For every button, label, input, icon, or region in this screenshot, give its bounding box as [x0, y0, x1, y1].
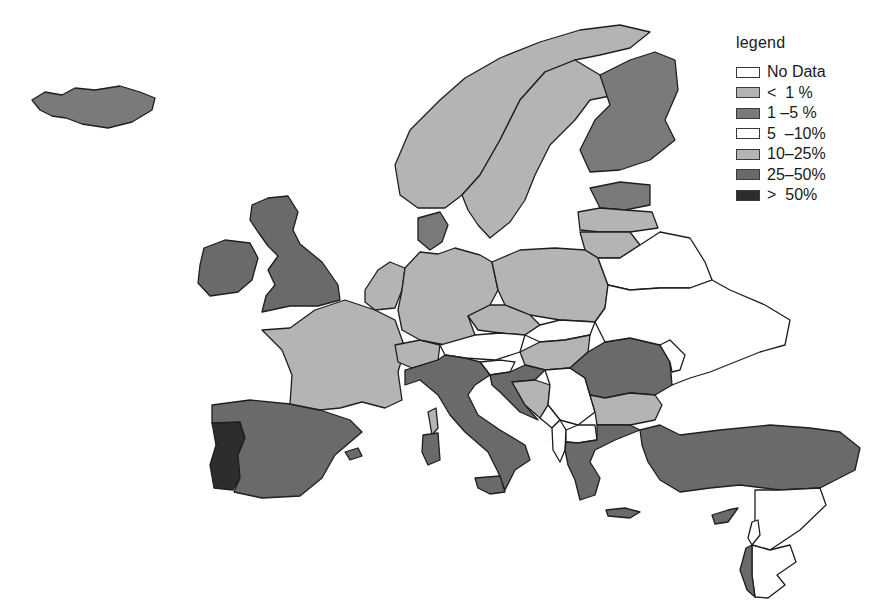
legend-label: No Data	[767, 63, 826, 81]
country-ireland	[198, 240, 258, 296]
legend-swatch	[736, 87, 760, 98]
country-bulgaria	[590, 393, 662, 425]
country-uk	[250, 196, 340, 312]
country-france-corsica	[428, 408, 438, 435]
country-france	[262, 300, 405, 410]
legend-item-1-5: 1 –5 %	[736, 103, 876, 124]
legend-item-no-data: No Data	[736, 62, 876, 83]
country-spain-balearics	[345, 448, 362, 460]
legend-label: 5 –10%	[767, 125, 826, 143]
legend-label: 1 –5 %	[767, 104, 817, 122]
country-albania	[552, 420, 566, 462]
legend-item-5-10: 5 –10%	[736, 124, 876, 145]
legend-swatch	[736, 149, 760, 160]
legend-item-lt1: < 1 %	[736, 83, 876, 104]
country-estonia	[590, 182, 650, 210]
legend-label: > 50%	[767, 186, 817, 204]
legend-title: legend	[736, 34, 876, 52]
country-finland	[580, 52, 678, 172]
map-legend: legend No Data < 1 % 1 –5 % 5 –10% 10–25…	[736, 34, 876, 206]
country-cyprus	[712, 508, 738, 524]
country-turkey	[640, 425, 860, 492]
country-greece-crete	[606, 508, 640, 518]
legend-swatch	[736, 108, 760, 119]
legend-item-25-50: 25–50%	[736, 165, 876, 186]
legend-swatch	[736, 128, 760, 139]
legend-item-10-25: 10–25%	[736, 144, 876, 165]
legend-item-gt50: > 50%	[736, 185, 876, 206]
legend-label: < 1 %	[767, 84, 813, 102]
legend-label: 25–50%	[767, 166, 826, 184]
country-denmark	[418, 212, 448, 250]
legend-label: 10–25%	[767, 145, 826, 163]
country-latvia	[578, 208, 658, 232]
legend-swatch	[736, 67, 760, 78]
country-italy-sardinia	[422, 433, 440, 465]
legend-swatch	[736, 169, 760, 180]
country-jordan	[752, 545, 796, 598]
country-iceland	[32, 86, 155, 128]
legend-swatch	[736, 190, 760, 201]
country-italy-sicily	[475, 476, 505, 494]
country-syria	[752, 488, 826, 550]
